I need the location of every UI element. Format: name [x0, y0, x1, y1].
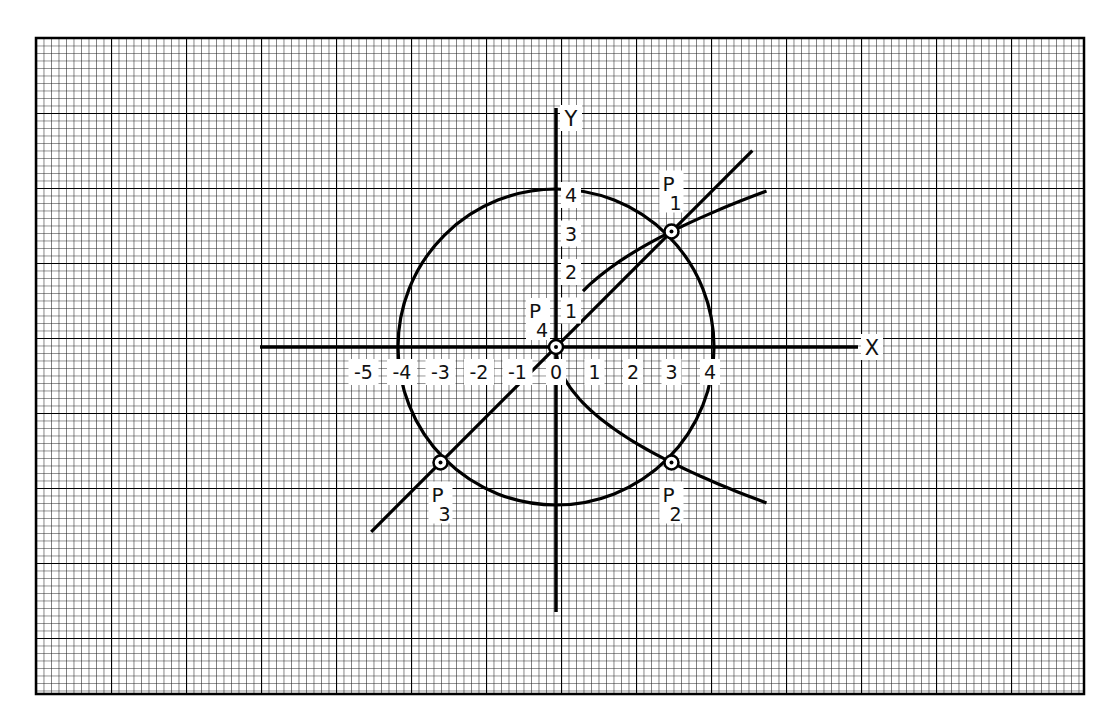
y-tick-label: 4	[561, 182, 581, 208]
svg-text:1: 1	[588, 361, 600, 383]
svg-text:Y: Y	[564, 107, 578, 131]
svg-text:-5: -5	[354, 361, 373, 383]
x-axis-label: X	[861, 334, 883, 360]
svg-text:3: 3	[565, 223, 577, 245]
x-tick-label: -5	[349, 359, 379, 385]
svg-text:0: 0	[550, 361, 562, 383]
svg-text:-4: -4	[393, 361, 412, 383]
x-tick-label: -4	[387, 359, 417, 385]
x-tick-label: -3	[426, 359, 456, 385]
svg-text:X: X	[865, 336, 879, 360]
x-tick-label: 2	[623, 359, 643, 385]
y-tick-label: 2	[561, 259, 581, 285]
point-label-p2: P2	[660, 482, 684, 525]
y-axis-label: Y	[560, 105, 582, 131]
svg-text:2: 2	[669, 503, 681, 525]
y-tick-label: 1	[561, 298, 581, 324]
svg-text:3: 3	[665, 361, 677, 383]
x-tick-label: 0	[546, 359, 566, 385]
x-tick-label: 3	[662, 359, 682, 385]
svg-text:2: 2	[627, 361, 639, 383]
x-tick-label: 4	[700, 359, 720, 385]
x-tick-label: -1	[503, 359, 533, 385]
svg-text:2: 2	[565, 261, 577, 283]
svg-text:1: 1	[565, 300, 577, 322]
y-tick-label: 3	[561, 221, 581, 247]
svg-text:4: 4	[536, 319, 548, 341]
graph-figure: -5-4-3-2-1012341234 XY P1P2P3P4	[0, 0, 1116, 724]
point-label-p1: P1	[660, 171, 684, 214]
svg-text:-3: -3	[431, 361, 450, 383]
point-label-p3: P3	[429, 482, 453, 525]
x-tick-label: -2	[464, 359, 494, 385]
svg-text:1: 1	[669, 192, 681, 214]
svg-text:-1: -1	[508, 361, 527, 383]
svg-text:3: 3	[438, 503, 450, 525]
svg-text:4: 4	[565, 184, 577, 206]
svg-text:4: 4	[704, 361, 716, 383]
svg-text:-2: -2	[470, 361, 489, 383]
point-label-p4: P4	[526, 298, 550, 341]
x-tick-label: 1	[585, 359, 605, 385]
